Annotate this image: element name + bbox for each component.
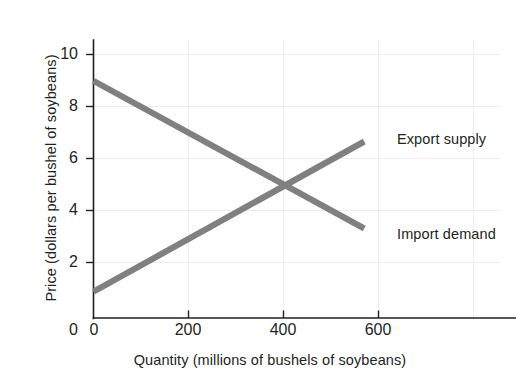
series-label-import-demand: Import demand (397, 226, 496, 242)
x-axis-ticks (189, 311, 379, 319)
y-axis-title: Price (dollars per bushel of soybeans) (43, 28, 59, 328)
x-tick-label-600: 600 (343, 322, 413, 338)
x-tick-label-400: 400 (248, 322, 318, 338)
x-tick-label-200: 200 (153, 322, 223, 338)
axis-lines (94, 40, 516, 319)
x-axis-title: Quantity (millions of bushels of soybean… (60, 352, 480, 368)
series-line-import-demand (94, 81, 365, 229)
chart-figure: 10 8 6 4 2 0 0 200 400 600 Price (dollar… (0, 0, 516, 390)
x-tick-label-0: 0 (59, 322, 129, 338)
y-axis-ticks (86, 55, 94, 263)
series-label-export-supply: Export supply (397, 131, 486, 147)
series-line-export-supply (94, 141, 365, 291)
